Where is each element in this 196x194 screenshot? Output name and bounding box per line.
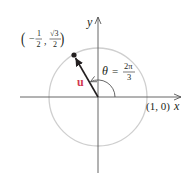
angle-numerator: 2π [124,61,133,71]
y-numerator: √3 [50,29,58,38]
x-axis-label: x [173,99,180,113]
theta-symbol: θ [102,64,108,78]
endpoint-coordinate-label: ( − 1 2 , √3 2 ) [21,29,64,49]
angle-arc [91,80,116,97]
x-denominator: 2 [37,40,41,49]
y-denominator: 2 [53,40,57,49]
x-sign: − [29,33,35,44]
y-axis-label: y [86,15,93,29]
endpoint-dot [71,52,76,57]
vector-u-label: u [77,75,84,89]
unit-circle-diagram: y x (1, 0) u ( − 1 2 , √3 2 ) θ = 2π 3 [0,0,196,194]
svg-text:(: ( [21,29,25,48]
point-1-0-label: (1, 0) [146,100,170,113]
angle-denominator: 3 [127,72,131,82]
angle-label: θ = 2π 3 [102,61,135,82]
svg-text:,: , [44,35,47,46]
equals-sign: = [112,65,118,77]
svg-text:): ) [60,29,64,48]
x-numerator: 1 [37,29,41,38]
